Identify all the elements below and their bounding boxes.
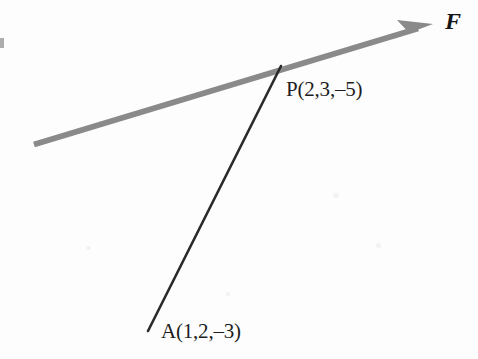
force-vector-label: F xyxy=(445,9,461,33)
point-p-label: P(2,3,–5) xyxy=(286,79,362,100)
scan-speck xyxy=(333,193,339,198)
scan-edge-artifact xyxy=(0,38,4,48)
force-vector-arrowhead xyxy=(393,20,433,39)
point-a-label: A(1,2,–3) xyxy=(161,321,241,342)
diagram-canvas xyxy=(0,0,478,359)
vector-diagram-figure: P(2,3,–5) A(1,2,–3) F xyxy=(0,0,478,359)
scan-speck xyxy=(376,243,381,248)
scan-speck xyxy=(226,292,230,296)
scan-speck xyxy=(86,246,91,250)
